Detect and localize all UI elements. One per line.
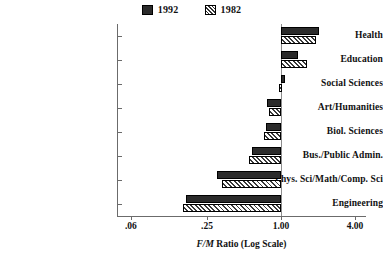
x-axis-tick-label: 1.00 (273, 222, 290, 232)
bar-1992-social-sciences (281, 75, 285, 83)
x-axis-tick (281, 216, 282, 220)
bar-1992-engineering (186, 195, 281, 203)
bar-1992-phys-sci-math-comp-sci (217, 171, 281, 179)
y-axis-line (117, 24, 118, 216)
bar-1982-art-humanities (269, 108, 281, 116)
bar-1992-art-humanities (267, 99, 281, 107)
x-axis-tick (131, 216, 132, 220)
x-axis-title-rest: Ratio (Log Scale) (214, 239, 287, 249)
bar-1992-education (281, 51, 298, 59)
bar-1992-bus-public-admin (252, 147, 281, 155)
bar-1992-health (281, 27, 319, 35)
x-axis-title: F/M Ratio (Log Scale) (117, 240, 366, 250)
bar-1982-bus-public-admin (249, 156, 281, 164)
bar-1982-education (281, 60, 307, 68)
bar-1982-biol-sciences (264, 132, 281, 140)
y-axis-tick (117, 156, 122, 157)
y-axis-label-phys-sci-math-comp-sci: Phys. Sci/Math/Comp. Sci (271, 175, 383, 185)
x-axis-title-fm: F/M (197, 239, 214, 249)
x-axis-tick-label: .06 (125, 222, 137, 232)
bar-1982-phys-sci-math-comp-sci (222, 180, 281, 188)
bar-1982-engineering (183, 204, 281, 212)
y-axis-label-biol-sciences: Biol. Sciences (271, 127, 383, 137)
x-axis-line (117, 216, 366, 217)
x-axis-tick (207, 216, 208, 220)
y-axis-tick (117, 204, 122, 205)
y-axis-label-social-sciences: Social Sciences (271, 79, 383, 89)
y-axis-tick (117, 180, 122, 181)
y-axis-tick (117, 60, 122, 61)
bar-1992-biol-sciences (266, 123, 281, 131)
x-axis-tick-label: 4.00 (347, 222, 364, 232)
bar-chart: HealthEducationSocial SciencesArt/Humani… (0, 0, 383, 260)
bar-1982-social-sciences (279, 84, 282, 92)
x-axis-tick (355, 216, 356, 220)
y-axis-label-bus-public-admin: Bus./Public Admin. (271, 151, 383, 161)
y-axis-label-engineering: Engineering (271, 199, 383, 209)
y-axis-label-art-humanities: Art/Humanities (271, 103, 383, 113)
y-axis-tick (117, 84, 122, 85)
y-axis-tick (117, 132, 122, 133)
x-axis-tick-label: .25 (201, 222, 213, 232)
y-axis-tick (117, 108, 122, 109)
y-axis-tick (117, 36, 122, 37)
bar-1982-health (281, 36, 316, 44)
